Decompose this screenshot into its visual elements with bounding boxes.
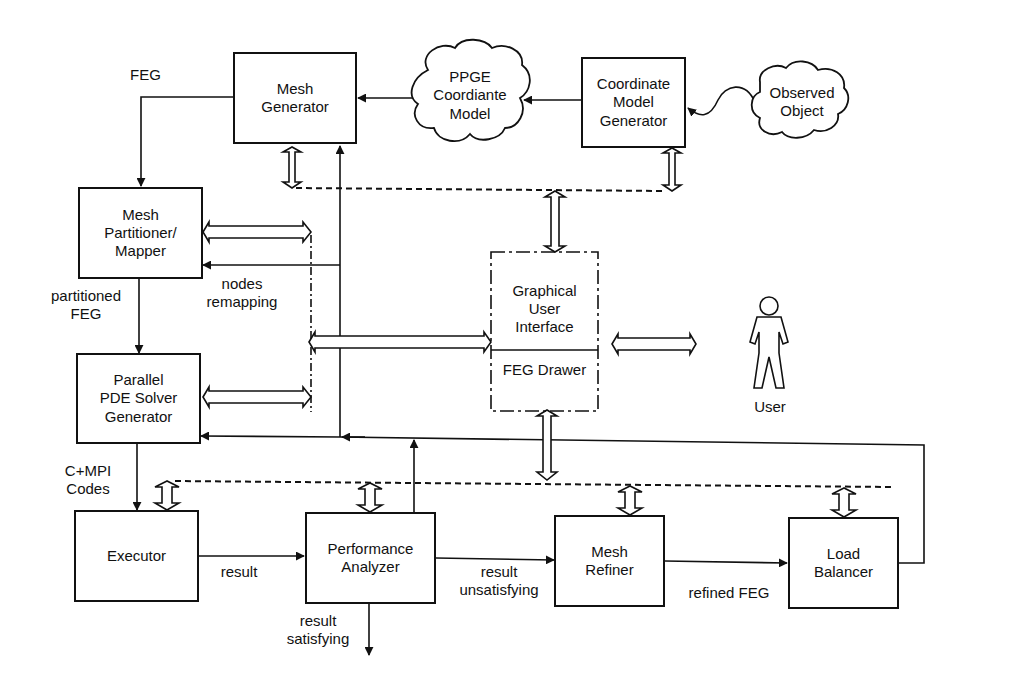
node-mesh-partitioner: Mesh Partitioner/ Mapper [78,187,203,279]
label-result-unsatisfying: result unsatisfying [444,563,554,600]
gui-label: Graphical User Interface [491,252,598,352]
node-mesh-refiner: Mesh Refiner [554,515,665,607]
label-partitioned-feg: partitioned FEG [36,287,136,324]
label-refined-feg: refined FEG [674,584,784,602]
bus-connector-cmg [663,148,681,191]
node-observed-object: Observed Object [756,84,848,121]
node-ppge-model: PPGE Coordiante Model [418,68,522,123]
label-result: result [212,563,266,581]
gui-user-connector [612,334,696,354]
node-performance-analyzer: Performance Analyzer [305,512,436,604]
bus-connector-gui-bottom [537,410,557,480]
node-parallel-pde: Parallel PDE Solver Generator [76,353,201,444]
bus-connector-gui-left [309,332,491,352]
node-executor: Executor [74,510,199,602]
label-nodes-remapping: nodes remapping [192,275,292,312]
user-label: User [745,398,795,416]
edge-feg [141,97,233,186]
diagram: Mesh Generator Coordinate Model Generato… [0,0,1026,688]
bus-connector-executor [155,481,179,510]
bus-connector-refiner [618,486,642,515]
bus-connector-loadbalancer [832,488,856,517]
bus-connector-pde [203,387,311,407]
user-icon [750,297,788,388]
bus-bottom [175,481,893,487]
edge-result-unsatisfying [436,558,554,560]
node-coordinate-model-generator: Coordinate Model Generator [581,57,686,148]
edge-refined-feg [665,561,787,563]
edge-observed-to-cmg [688,87,755,115]
label-cmpi-codes: C+MPI Codes [50,462,126,499]
node-mesh-generator: Mesh Generator [233,52,357,144]
feg-drawer-label: FEG Drawer [491,354,598,384]
label-feg: FEG [130,66,161,84]
bus-connector-meshgen [283,147,301,188]
label-result-satisfying: result satisfying [268,612,368,649]
node-load-balancer: Load Balancer [788,517,899,609]
bus-connector-perf [358,483,382,512]
bus-top [296,188,665,191]
bus-connector-gui-top [545,191,565,252]
bus-connector-partitioner [203,222,311,242]
node-gui: Graphical User Interface FEG Drawer [491,252,598,411]
